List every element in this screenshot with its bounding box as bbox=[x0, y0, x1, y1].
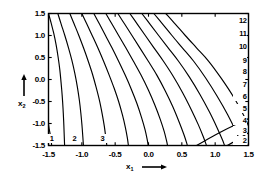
y-tick-label: 1.0 bbox=[20, 31, 45, 40]
contour-label-right: 12 bbox=[233, 16, 247, 25]
x-axis-title: x1 bbox=[126, 162, 134, 171]
x-tick-label: -0.5 bbox=[104, 150, 126, 159]
y-tick-label: -1.0 bbox=[20, 119, 45, 128]
contour-label-right: 9 bbox=[233, 56, 247, 65]
contour-label-right: 7 bbox=[233, 80, 247, 89]
x-tick-label: 0.5 bbox=[171, 150, 193, 159]
y-tick-label: 0.5 bbox=[20, 53, 45, 62]
x-tick-label: 1.5 bbox=[238, 150, 260, 159]
x-tick-label: -1.0 bbox=[71, 150, 93, 159]
x-tick-label: 1.0 bbox=[204, 150, 226, 159]
contour-label-right: 4 bbox=[233, 116, 247, 125]
y-tick-label: -1.5 bbox=[20, 141, 45, 150]
contour-label-right: 8 bbox=[233, 67, 247, 76]
contour-label-right: 3 bbox=[233, 126, 247, 135]
y-tick-label: 1.5 bbox=[20, 9, 45, 18]
contour-label-bottom: 2 bbox=[70, 134, 79, 143]
y-axis-title: x2 bbox=[18, 99, 26, 108]
y-axis-title-subscript: 2 bbox=[22, 103, 25, 109]
contour-label-right: 11 bbox=[233, 29, 247, 38]
contour-label-bottom: 1 bbox=[47, 134, 56, 143]
contour-label-right: 2 bbox=[233, 136, 247, 145]
contour-label-bottom: 3 bbox=[98, 134, 107, 143]
contour-label-right: 5 bbox=[233, 104, 247, 113]
x-tick-label: -1.5 bbox=[38, 150, 60, 159]
contour-plot-figure: -1.5-1.0-0.50.00.51.01.5 -1.5-1.0-0.50.0… bbox=[0, 0, 276, 177]
y-tick-label: 0.0 bbox=[20, 75, 45, 84]
x-tick-label: 0.0 bbox=[138, 150, 160, 159]
contour-lines bbox=[49, 14, 249, 146]
x-axis-title-subscript: 1 bbox=[130, 166, 133, 172]
contour-label-right: 10 bbox=[233, 42, 247, 51]
contour-label-right: 6 bbox=[233, 92, 247, 101]
